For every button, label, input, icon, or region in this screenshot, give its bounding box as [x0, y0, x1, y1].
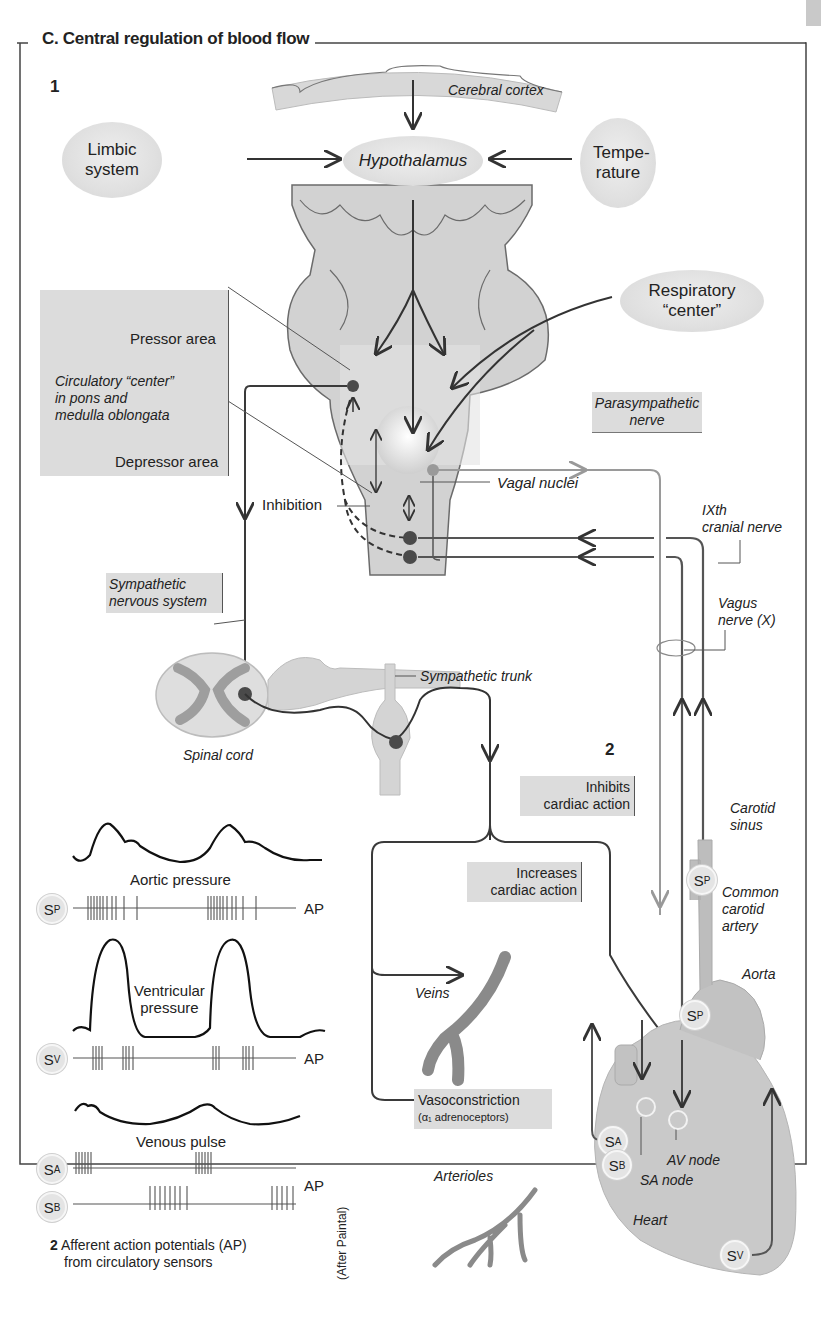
sensor-sp-carotid: SP	[687, 865, 717, 895]
vasoconstriction-label: Vasoconstriction	[418, 1092, 548, 1109]
limbic-system-label: Limbic system	[82, 140, 142, 180]
parasympathetic-line2: nerve	[592, 412, 702, 429]
caption-line2: from circulatory sensors	[50, 1254, 247, 1271]
common-carotid-line3: artery	[722, 918, 779, 935]
common-carotid-line1: Common	[722, 884, 779, 901]
vasoconstriction-sub-label: (α₁ adrenoceptors)	[418, 1109, 548, 1126]
heart-label: Heart	[633, 1212, 667, 1229]
sensor-base: S	[605, 1133, 615, 1150]
sensor-sub: V	[54, 1054, 61, 1065]
sensor-sub: A	[54, 1164, 61, 1175]
caption-line1: Afferent action potentials (AP)	[61, 1237, 247, 1253]
sensor-base: S	[44, 901, 54, 918]
circulatory-center-line3: medulla oblongata	[55, 407, 169, 424]
diagram-artwork	[0, 0, 821, 1324]
av-node-label: AV node	[667, 1152, 720, 1169]
sensor-sv-heart: SV	[720, 1240, 750, 1270]
sensor-sub: P	[54, 904, 61, 915]
parasympathetic-line1: Parasympathetic	[592, 395, 702, 412]
ap-label-venous: AP	[304, 1177, 324, 1194]
sensor-sub: B	[619, 1160, 626, 1171]
limbic-system-node: Limbic system	[62, 122, 162, 198]
carotid-sinus-label: Carotid sinus	[730, 800, 775, 834]
spinal-cord-label: Spinal cord	[183, 747, 253, 764]
ap-sensor-sv: SV	[37, 1044, 67, 1074]
carotid-sinus-line2: sinus	[730, 817, 775, 834]
ixth-cranial-nerve-label: IXth cranial nerve	[702, 502, 782, 536]
common-carotid-artery-label: Common carotid artery	[722, 884, 779, 935]
veins-label: Veins	[415, 985, 450, 1002]
arterioles-label: Arterioles	[434, 1168, 493, 1185]
figure-title: C. Central regulation of blood flow	[36, 29, 315, 49]
panel-1-number: 1	[50, 77, 59, 97]
increases-cardiac-action-callout: Increases cardiac action	[467, 862, 582, 902]
ventricular-pressure-label: Ventricular pressure	[134, 982, 205, 1016]
vagus-nerve-label: Vagus nerve (X)	[718, 595, 776, 629]
ap-label-ventricular: AP	[304, 1050, 324, 1067]
respiratory-center-label: Respiratory “center”	[642, 281, 742, 321]
depressor-area-label: Depressor area	[115, 453, 218, 470]
hypothalamus-label: Hypothalamus	[359, 151, 468, 171]
vagus-line2: nerve (X)	[718, 612, 776, 629]
inhibits-line2: cardiac action	[524, 796, 630, 813]
ventricular-line1: Ventricular	[134, 982, 205, 999]
arterioles-shape	[435, 1190, 535, 1265]
sensor-base: S	[609, 1157, 619, 1174]
credit-label: (After Paintal)	[334, 1207, 351, 1280]
vasoconstriction-callout: Vasoconstriction (α₁ adrenoceptors)	[414, 1089, 552, 1129]
ixth-line2: cranial nerve	[702, 519, 782, 536]
sensor-sp-aorta: SP	[680, 1000, 710, 1030]
ap-label-aortic: AP	[304, 900, 324, 917]
increases-line1: Increases	[471, 865, 577, 882]
sensor-base: S	[727, 1247, 737, 1264]
ap-sensor-sb: SB	[37, 1192, 67, 1222]
inhibits-line1: Inhibits	[524, 779, 630, 796]
sensor-base: S	[44, 1199, 54, 1216]
ixth-line1: IXth	[702, 502, 782, 519]
sensor-base: S	[44, 1161, 54, 1178]
vagus-line1: Vagus	[718, 595, 776, 612]
aortic-pressure-label: Aortic pressure	[130, 871, 231, 888]
inhibits-cardiac-action-callout: Inhibits cardiac action	[520, 776, 635, 816]
carotid-sinus-line1: Carotid	[730, 800, 775, 817]
circulatory-center-line1: Circulatory “center”	[55, 373, 174, 390]
vagal-nuclei-label: Vagal nuclei	[497, 474, 578, 491]
sensor-sub: V	[737, 1250, 744, 1261]
parasympathetic-nerve-callout: Parasympathetic nerve	[592, 392, 702, 433]
hypothalamus-node: Hypothalamus	[343, 136, 483, 186]
vagus-bundle-marker	[657, 640, 695, 656]
sensor-sub: P	[704, 875, 711, 886]
temperature-node: Tempe-rature	[580, 118, 656, 208]
ap-sensor-sa: SA	[37, 1154, 67, 1184]
caption-number: 2	[50, 1237, 58, 1253]
sympathetic-line2: nervous system	[109, 593, 219, 610]
sympathetic-line1: Sympathetic	[109, 576, 219, 593]
sympathetic-trunk-label: Sympathetic trunk	[420, 668, 532, 685]
sympathetic-nervous-system-callout: Sympathetic nervous system	[106, 573, 223, 613]
respiratory-center-node: Respiratory “center”	[620, 270, 764, 332]
ap-sensor-sp: SP	[37, 894, 67, 924]
sensor-sub: P	[697, 1010, 704, 1021]
sensor-sb-heart: SB	[602, 1150, 632, 1180]
temperature-label: Tempe-rature	[593, 143, 643, 183]
ap-panel-caption: 2 Afferent action potentials (AP) from c…	[50, 1237, 247, 1271]
pressor-area-label: Pressor area	[130, 330, 216, 347]
common-carotid-line2: carotid	[722, 901, 779, 918]
sensor-base: S	[687, 1007, 697, 1024]
sensor-sub: B	[54, 1202, 61, 1213]
panel-2-number: 2	[605, 740, 614, 760]
sa-node-label: SA node	[640, 1172, 693, 1189]
sensor-sub: A	[615, 1136, 622, 1147]
ventricular-line2: pressure	[134, 999, 205, 1016]
sensor-base: S	[44, 1051, 54, 1068]
venous-pulse-label: Venous pulse	[136, 1133, 226, 1150]
inhibition-label: Inhibition	[262, 496, 322, 513]
increases-line2: cardiac action	[471, 882, 577, 899]
cerebral-cortex-label: Cerebral cortex	[448, 82, 544, 99]
sensor-base: S	[694, 872, 704, 889]
circulatory-center-line2: in pons and	[55, 390, 127, 407]
aorta-label: Aorta	[742, 966, 775, 983]
